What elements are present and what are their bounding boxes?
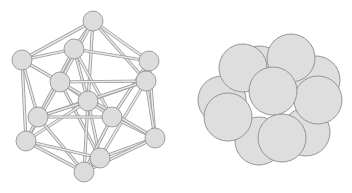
bond	[26, 141, 100, 158]
cluster-diagram	[0, 0, 352, 193]
sphere-10	[249, 67, 297, 115]
sphere-9	[258, 114, 306, 162]
atom-mid-left-back	[28, 107, 48, 127]
atom-mid-right-back	[102, 107, 122, 127]
atom-left-front	[50, 72, 70, 92]
atom-lower-right	[145, 128, 165, 148]
bond	[88, 21, 93, 101]
atom-upper-left	[12, 50, 32, 70]
atom-bottom-front	[90, 148, 110, 168]
atom-upper-back	[64, 39, 84, 59]
bond	[60, 81, 146, 82]
atom-upper-right	[139, 51, 159, 71]
figure: Ball-and-stick model of 13-atom icosahed…	[0, 0, 352, 193]
space-filling-model	[198, 34, 342, 165]
sphere-8	[204, 93, 252, 141]
bond	[84, 101, 88, 172]
ball-and-stick-model	[12, 11, 165, 182]
atom-top	[83, 11, 103, 31]
atom-right-front	[136, 71, 156, 91]
bond	[93, 21, 146, 81]
atom-lower-left	[16, 131, 36, 151]
atom-center	[78, 91, 98, 111]
bond	[74, 49, 149, 61]
sphere-7	[294, 76, 342, 124]
atom-bottom	[74, 162, 94, 182]
